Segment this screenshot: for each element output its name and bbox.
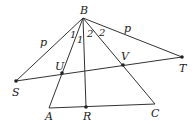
point-S xyxy=(14,79,18,83)
label-V: V xyxy=(121,50,130,63)
label-S: S xyxy=(12,86,20,99)
segment-BR xyxy=(83,18,86,107)
label-T: T xyxy=(179,62,188,75)
label-U: U xyxy=(55,60,65,73)
label-C: C xyxy=(151,107,160,120)
angle-label-2a: 2 xyxy=(86,28,93,39)
segment-BS xyxy=(16,18,83,81)
label-p-left: p xyxy=(40,36,47,49)
segment-BT xyxy=(83,18,182,57)
point-V xyxy=(121,63,125,67)
label-R: R xyxy=(82,110,91,123)
geometry-diagram: B S T U V A R C p p 1 1 2 2 xyxy=(0,0,196,124)
label-B: B xyxy=(79,4,88,17)
point-R xyxy=(84,105,88,109)
label-A: A xyxy=(44,110,53,123)
segment-AC xyxy=(49,104,155,108)
angle-label-2b: 2 xyxy=(98,27,105,38)
angle-label-1a: 1 xyxy=(70,29,76,40)
point-T xyxy=(180,55,184,59)
angle-label-1b: 1 xyxy=(77,34,83,45)
segment-ST xyxy=(16,57,182,81)
label-p-right: p xyxy=(124,22,131,35)
segment-BC xyxy=(83,18,155,104)
